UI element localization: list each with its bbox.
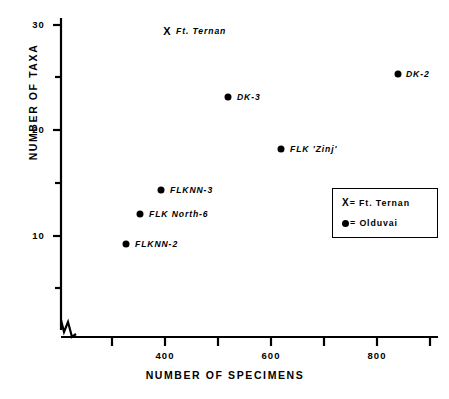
data-label-dk-3: DK-3 — [237, 92, 261, 102]
x-tick-label-800: 800 — [352, 350, 402, 361]
legend-row-ft-ternan: X = Ft. Ternan — [342, 198, 410, 208]
legend-label-ft-ternan: = Ft. Ternan — [350, 198, 410, 208]
data-label-flk-north-6: FLK North-6 — [149, 209, 209, 219]
y-tick-label-30: 30 — [5, 19, 45, 30]
y-tick-label-10: 10 — [5, 230, 45, 241]
data-label-flknn-2: FLKNN-2 — [135, 239, 178, 249]
x-axis-title: NUMBER OF SPECIMENS — [60, 369, 390, 381]
data-marker-dk-2 — [395, 71, 402, 78]
data-label-ft-ternan: Ft. Ternan — [176, 26, 226, 36]
data-marker-flk-north-6 — [137, 211, 144, 218]
y-axis-title: NUMBER OF TAXA — [27, 12, 39, 192]
data-marker-flk-zinj — [278, 146, 285, 153]
data-marker-flknn-2 — [123, 241, 130, 248]
legend-x-marker-icon: X — [342, 198, 349, 208]
data-marker-ft-ternan: X — [163, 26, 170, 37]
x-tick-label-400: 400 — [140, 350, 190, 361]
scatter-plot-figure: NUMBER OF TAXA NUMBER OF SPECIMENS 30 20… — [0, 0, 449, 399]
y-tick-label-20: 20 — [5, 124, 45, 135]
legend-label-olduvai: = Olduvai — [350, 218, 398, 228]
data-marker-flknn-3 — [158, 187, 165, 194]
x-tick-label-600: 600 — [246, 350, 296, 361]
data-marker-dk-3 — [225, 94, 232, 101]
legend-box: X = Ft. Ternan = Olduvai — [332, 188, 438, 238]
data-label-flk-zinj: FLK 'Zinj' — [290, 144, 337, 154]
data-label-flknn-3: FLKNN-3 — [170, 185, 213, 195]
legend-row-olduvai: = Olduvai — [342, 218, 398, 228]
data-label-dk-2: DK-2 — [406, 69, 430, 79]
axis-break-zigzag — [61, 320, 76, 337]
legend-dot-marker-icon — [342, 220, 349, 227]
